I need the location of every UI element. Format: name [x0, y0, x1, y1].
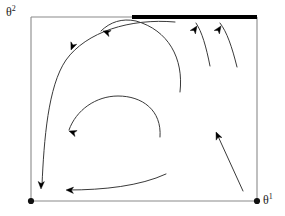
trajectory-large-arc [101, 20, 181, 92]
theta2-exponent: 2 [12, 4, 16, 13]
theta2-axis-label: θ2 [6, 6, 16, 18]
theta1-axis-label: θ1 [263, 194, 273, 206]
corner-dot-theta1 [254, 198, 260, 204]
trajectory-bottom-sweep [68, 174, 166, 190]
plot-frame [31, 17, 257, 201]
trajectory-right-outer-up [220, 23, 237, 67]
trajectory-group [38, 20, 243, 193]
trajectory-right-inner-up [196, 23, 210, 66]
arrowhead-up-left-lower-right [213, 131, 222, 140]
arrowhead-down-left-lower [38, 181, 45, 189]
trajectory-lower-right-straight [217, 134, 243, 191]
phase-portrait-canvas [0, 0, 285, 216]
trajectory-long-left-descent [42, 21, 175, 185]
theta1-exponent: 1 [269, 192, 273, 201]
trajectory-inner-arc [69, 96, 160, 137]
origin-dot [28, 198, 34, 204]
phase-portrait-figure: θ2 θ1 [0, 0, 285, 216]
